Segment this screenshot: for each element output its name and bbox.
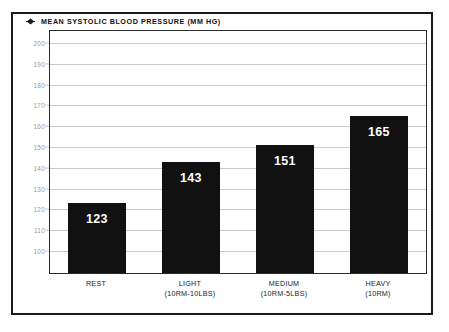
gridline [50, 105, 426, 106]
y-axis-tick-label: 110 [34, 227, 45, 234]
bar-value-label: 165 [350, 125, 408, 139]
bar: 143 [162, 162, 220, 273]
bar: 165 [350, 116, 408, 273]
y-axis-tick-label: 170 [33, 102, 45, 109]
y-axis-tick-label: 120 [33, 206, 45, 213]
category-label-name: MEDIUM [237, 279, 331, 289]
category-label: REST [49, 279, 143, 289]
category-label: LIGHT(10RM-10LBS) [143, 279, 237, 298]
y-axis-tick-label: 130 [33, 185, 45, 192]
y-axis-tick-label: 190 [33, 60, 45, 67]
diamond-marker-icon [26, 17, 35, 26]
y-axis-tick-mark [45, 167, 49, 168]
y-axis-tick-mark [45, 230, 49, 231]
chart-title-row: MEAN SYSTOLIC BLOOD PRESSURE (MM HG) [26, 17, 221, 26]
y-axis-tick-mark [45, 209, 49, 210]
y-axis-tick-mark [45, 147, 49, 148]
y-axis-tick-label: 200 [33, 40, 45, 47]
plot-area: 2001901801701601501401301201101001231431… [49, 30, 427, 274]
category-label-name: HEAVY [331, 279, 425, 289]
y-axis-tick-mark [45, 251, 49, 252]
y-axis-tick-label: 160 [33, 123, 45, 130]
category-label-detail: (10RM) [331, 289, 425, 299]
y-axis-tick-mark [45, 84, 49, 85]
y-axis-tick-mark [45, 105, 49, 106]
category-label: HEAVY(10RM) [331, 279, 425, 298]
bar-value-label: 151 [256, 154, 314, 168]
gridline [50, 85, 426, 86]
y-axis-tick-mark [45, 126, 49, 127]
category-label-detail: (10RM-10LBS) [143, 289, 237, 299]
chart-title: MEAN SYSTOLIC BLOOD PRESSURE (MM HG) [41, 17, 221, 26]
chart-frame: MEAN SYSTOLIC BLOOD PRESSURE (MM HG) 200… [11, 12, 433, 315]
gridline [50, 43, 426, 44]
bar-value-label: 123 [68, 212, 126, 226]
y-axis-tick-mark [45, 188, 49, 189]
y-axis-tick-mark [45, 63, 49, 64]
bar-value-label: 143 [162, 171, 220, 185]
bar: 123 [68, 203, 126, 273]
y-axis-tick-label: 150 [33, 144, 45, 151]
y-axis-tick-mark [45, 43, 49, 44]
y-axis-tick-label: 180 [33, 81, 45, 88]
y-axis-tick-label: 100 [33, 248, 45, 255]
bar: 151 [256, 145, 314, 273]
category-label-detail: (10RM-5LBS) [237, 289, 331, 299]
category-label-name: LIGHT [143, 279, 237, 289]
category-label-name: REST [49, 279, 143, 289]
gridline [50, 64, 426, 65]
y-axis-tick-label: 140 [33, 164, 45, 171]
category-label: MEDIUM(10RM-5LBS) [237, 279, 331, 298]
